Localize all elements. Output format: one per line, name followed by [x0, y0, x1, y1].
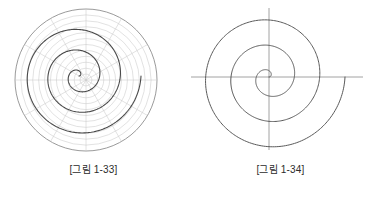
spiral-curve: [206, 20, 345, 147]
figure-1-33-caption: [그림 1-33]: [69, 163, 117, 177]
polar-grid-radial-line: [25, 80, 86, 116]
polar-grid-radial-line: [86, 45, 147, 81]
polar-grid-radial-line: [51, 19, 87, 80]
figure-1-34-plot: [187, 0, 374, 163]
figure-row: [그림 1-33] [그림 1-34]: [0, 0, 374, 197]
figure-1-34-caption: [그림 1-34]: [256, 163, 304, 177]
polar-grid-radial-line: [51, 80, 87, 141]
figure-1-33-plot: [0, 0, 187, 163]
axes-spiral-diagram: [187, 0, 374, 163]
figure-1-34: [그림 1-34]: [187, 0, 374, 197]
polar-spiral-diagram: [0, 0, 187, 163]
axes: [191, 8, 363, 150]
figure-1-33: [그림 1-33]: [0, 0, 187, 197]
polar-grid-radial-line: [86, 19, 122, 80]
